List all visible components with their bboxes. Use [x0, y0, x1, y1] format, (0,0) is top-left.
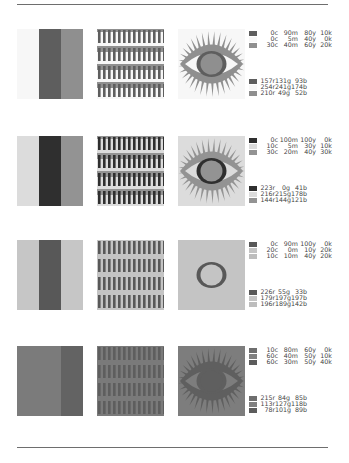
cmyk-values: 0c100m100y0k10c5m30y10k30c20m40y30k	[249, 137, 349, 155]
eye-illustration	[178, 240, 245, 310]
color-swatch	[249, 296, 257, 301]
color-swatch	[249, 348, 257, 353]
rgb-b-value: 142b	[290, 301, 307, 307]
eye-illustration	[178, 346, 245, 416]
cmyk-c-value: 30c	[259, 42, 278, 48]
stripe-band	[39, 346, 61, 416]
stripe-band	[39, 29, 61, 99]
eye-illustration	[178, 136, 245, 206]
rgb-g-value: 189g	[275, 301, 290, 307]
cmyk-row: 30c20m40y30k	[249, 149, 349, 155]
bar-pattern-block	[97, 346, 164, 416]
color-swatch	[249, 402, 257, 407]
rgb-r-value: 196r	[259, 301, 275, 307]
color-legend: 0c90m100y0k20c0m10y20k10c10m40y20k226r55…	[249, 240, 349, 310]
color-swatch	[249, 31, 257, 36]
stripe-band	[39, 136, 61, 206]
color-swatch	[249, 37, 257, 42]
cmyk-row: 30c40m60y20k	[249, 42, 349, 48]
color-swatch	[249, 396, 257, 401]
stripe-band	[17, 346, 39, 416]
cmyk-y-value: 50y	[298, 359, 316, 365]
color-swatch	[249, 302, 257, 307]
rgb-g-value: 144g	[275, 197, 290, 203]
cmyk-k-value: 40k	[316, 359, 332, 365]
cmyk-y-value: 60y	[298, 42, 316, 48]
stripe-band	[39, 240, 61, 310]
color-swatch	[249, 144, 257, 149]
cmyk-y-value: 40y	[298, 149, 316, 155]
bar-pattern-block	[97, 29, 164, 99]
stripe-band	[17, 240, 39, 310]
rgb-b-value: 52b	[290, 90, 307, 96]
color-swatch	[249, 91, 257, 96]
color-swatch	[249, 408, 257, 413]
rgb-values: 157r131g93b254r241g174b210r49g52b	[249, 78, 349, 96]
cmyk-y-value: 40y	[298, 253, 316, 259]
cmyk-m-value: 30m	[278, 359, 298, 365]
rgb-values: 226r55g33b179r197g197b196r189g142b	[249, 289, 349, 307]
rgb-values: 223r0g41b216r215g178b144r144g121b	[249, 185, 349, 203]
bar-pattern-block	[97, 136, 164, 206]
cmyk-row: 10c10m40y20k	[249, 253, 349, 259]
rgb-r-value: 210r	[259, 90, 275, 96]
stripe-band	[61, 240, 83, 310]
stripe-swatch-block	[17, 136, 83, 206]
stripe-band	[17, 29, 39, 99]
color-swatch	[249, 254, 257, 259]
color-legend: 0c100m100y0k10c5m30y10k30c20m40y30k223r0…	[249, 136, 349, 206]
eye-illustration	[178, 29, 245, 99]
color-specimen-row: 0c90m80y10k0c5m40y0k30c40m60y20k157r131g…	[0, 29, 349, 101]
color-specimen-row: 0c100m100y0k10c5m30y10k30c20m40y30k223r0…	[0, 136, 349, 208]
stripe-swatch-block	[17, 346, 83, 416]
color-legend: 0c90m80y10k0c5m40y0k30c40m60y20k157r131g…	[249, 29, 349, 99]
rgb-b-value: 121b	[290, 197, 307, 203]
stripe-swatch-block	[17, 29, 83, 99]
top-rule	[17, 4, 328, 5]
color-swatch	[249, 360, 257, 365]
cmyk-values: 0c90m80y10k0c5m40y0k30c40m60y20k	[249, 30, 349, 48]
stripe-band	[61, 136, 83, 206]
cmyk-m-value: 10m	[278, 253, 298, 259]
rgb-row: 144r144g121b	[249, 197, 349, 203]
color-swatch	[249, 79, 257, 84]
rgb-row: 196r189g142b	[249, 301, 349, 307]
color-specimen-row: 0c90m100y0k20c0m10y20k10c10m40y20k226r55…	[0, 240, 349, 312]
color-swatch	[249, 242, 257, 247]
rgb-b-value: 89b	[290, 407, 307, 413]
rgb-r-value: 144r	[259, 197, 275, 203]
color-swatch	[249, 43, 257, 48]
color-legend: 10c80m60y0k60c40m50y10k60c30m50y40k215r8…	[249, 346, 349, 416]
color-swatch	[249, 150, 257, 155]
cmyk-k-value: 20k	[316, 253, 332, 259]
color-swatch	[249, 138, 257, 143]
cmyk-k-value: 30k	[316, 149, 332, 155]
bar-pattern-block	[97, 240, 164, 310]
cmyk-values: 0c90m100y0k20c0m10y20k10c10m40y20k	[249, 241, 349, 259]
rgb-g-value: 49g	[275, 90, 290, 96]
stripe-band	[61, 29, 83, 99]
color-specimen-row: 10c80m60y0k60c40m50y10k60c30m50y40k215r8…	[0, 346, 349, 418]
color-swatch	[249, 354, 257, 359]
stripe-band	[17, 136, 39, 206]
rgb-g-value: 101g	[275, 407, 290, 413]
color-swatch	[249, 192, 257, 197]
cmyk-c-value: 60c	[259, 359, 278, 365]
cmyk-row: 60c30m50y40k	[249, 359, 349, 365]
color-swatch	[249, 248, 257, 253]
rgb-row: 210r49g52b	[249, 90, 349, 96]
bottom-rule	[17, 447, 328, 448]
rgb-r-value: 78r	[259, 407, 275, 413]
color-swatch	[249, 290, 257, 295]
cmyk-c-value: 30c	[259, 149, 278, 155]
cmyk-k-value: 20k	[316, 42, 332, 48]
cmyk-m-value: 20m	[278, 149, 298, 155]
color-swatch	[249, 186, 257, 191]
cmyk-values: 10c80m60y0k60c40m50y10k60c30m50y40k	[249, 347, 349, 365]
rgb-values: 215r84g85b113r127g118b78r101g89b	[249, 395, 349, 413]
rgb-row: 78r101g89b	[249, 407, 349, 413]
cmyk-m-value: 40m	[278, 42, 298, 48]
stripe-swatch-block	[17, 240, 83, 310]
stripe-band	[61, 346, 83, 416]
color-swatch	[249, 198, 257, 203]
